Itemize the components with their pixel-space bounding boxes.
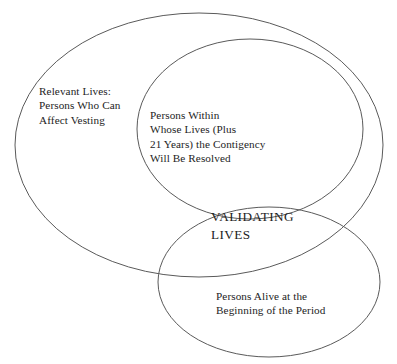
venn-diagram: Relevant Lives: Persons Who Can Affect V… xyxy=(0,0,397,364)
label-relevant-lives: Relevant Lives: Persons Who Can Affect V… xyxy=(39,84,120,127)
label-validating-lives: VALIDATING LIVES xyxy=(211,208,294,243)
venn-ellipses-canvas xyxy=(0,0,397,364)
label-persons-within: Persons Within Whose Lives (Plus 21 Year… xyxy=(150,108,266,166)
label-persons-alive: Persons Alive at the Beginning of the Pe… xyxy=(216,289,326,318)
